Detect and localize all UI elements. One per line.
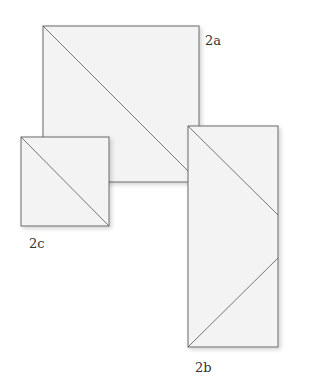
label-2c: 2c <box>29 236 45 251</box>
square-2c <box>21 137 109 226</box>
quilt-diagram <box>0 0 329 388</box>
rectangle-2b <box>188 126 278 347</box>
label-2b: 2b <box>195 360 212 375</box>
label-2a: 2a <box>205 33 221 48</box>
